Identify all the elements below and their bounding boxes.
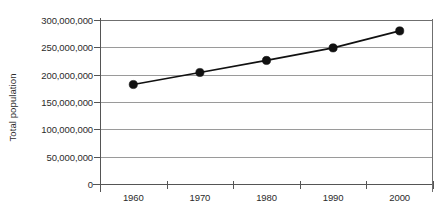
data-point-marker (396, 27, 404, 35)
data-series-total-population (0, 0, 446, 215)
data-point-marker (262, 56, 270, 64)
data-point-marker (196, 68, 204, 76)
data-point-marker (329, 44, 337, 52)
chart-screenshot: Total population 050,000,000100,000,0001… (0, 0, 446, 215)
data-point-marker (129, 80, 137, 88)
